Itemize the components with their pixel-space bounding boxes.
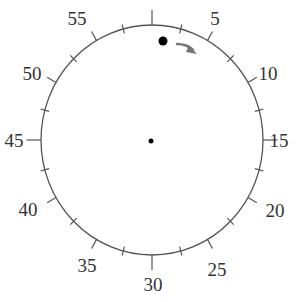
tick-mark [47, 198, 56, 203]
label-40: 40 [19, 199, 38, 220]
label-30: 30 [144, 274, 163, 295]
label-25: 25 [208, 259, 227, 280]
center-point [149, 139, 154, 144]
clock-diagram: 55 5 10 15 20 25 30 35 40 45 50 [0, 0, 297, 302]
tick-mark [92, 31, 97, 40]
tick-mark [248, 77, 257, 82]
label-35: 35 [78, 255, 97, 276]
label-10: 10 [259, 63, 278, 84]
tick-mark [92, 240, 97, 249]
dial-labels: 55 5 10 15 20 25 30 35 40 45 50 [5, 8, 289, 295]
tick-mark [248, 198, 257, 203]
label-5: 5 [210, 8, 220, 29]
label-45: 45 [5, 130, 24, 151]
moving-point [159, 37, 168, 46]
tick-mark [208, 240, 213, 249]
label-20: 20 [266, 200, 285, 221]
label-50: 50 [23, 63, 42, 84]
tick-mark [208, 31, 213, 40]
label-55: 55 [68, 8, 87, 29]
tick-mark [47, 77, 56, 82]
clockwise-arrow-icon [177, 44, 197, 54]
label-15: 15 [270, 130, 289, 151]
